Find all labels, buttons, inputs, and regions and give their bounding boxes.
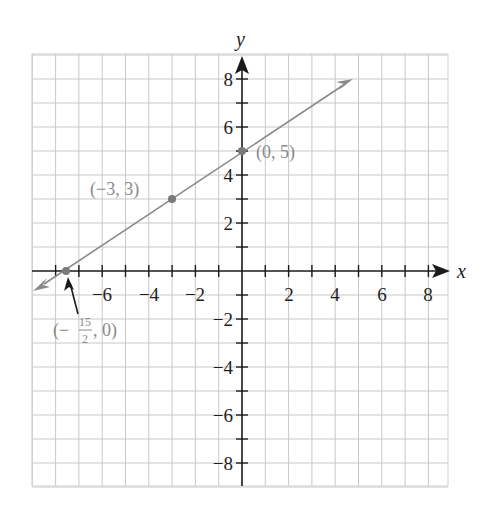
y-tick-label: 4	[224, 165, 234, 186]
point-label-x-intercept: (− 15 2 , 0)	[53, 315, 117, 346]
svg-text:(−: (−	[53, 320, 69, 341]
coordinate-plane-chart: x y −6 −4 −2 2 4 6 8 8 6 4 2 −2 −4 −6 −8…	[0, 0, 492, 520]
y-tick-label: −4	[213, 357, 234, 378]
x-tick-label: 8	[423, 284, 433, 305]
fraction-denominator: 2	[82, 332, 88, 346]
y-tick-label: −6	[213, 405, 233, 426]
x-tick-label: −2	[185, 284, 205, 305]
x-tick-label: −4	[139, 284, 160, 305]
point-neg15over2-0	[62, 267, 70, 275]
y-tick-label: 8	[224, 69, 234, 90]
y-tick-label: 6	[224, 117, 234, 138]
x-tick-label: 6	[377, 284, 387, 305]
point-label-0-5: (0, 5)	[256, 142, 295, 163]
x-tick-label: 4	[330, 284, 340, 305]
y-tick-label: 2	[224, 213, 234, 234]
point-label-neg3-3: (−3, 3)	[90, 179, 139, 200]
point-0-5	[238, 147, 246, 155]
grid-border	[32, 54, 448, 486]
fraction-numerator: 15	[79, 315, 91, 329]
x-axis-label: x	[456, 260, 466, 282]
y-tick-label: −2	[213, 309, 233, 330]
pointer-arrow-icon	[64, 277, 74, 291]
x-tick-label: −6	[92, 284, 112, 305]
svg-text:, 0): , 0)	[93, 320, 117, 341]
line-arrow-left-icon	[33, 278, 50, 291]
y-tick-label: −8	[213, 453, 233, 474]
y-axis-label: y	[234, 28, 245, 51]
point-neg3-3	[168, 195, 176, 203]
x-tick-label: 2	[284, 284, 294, 305]
